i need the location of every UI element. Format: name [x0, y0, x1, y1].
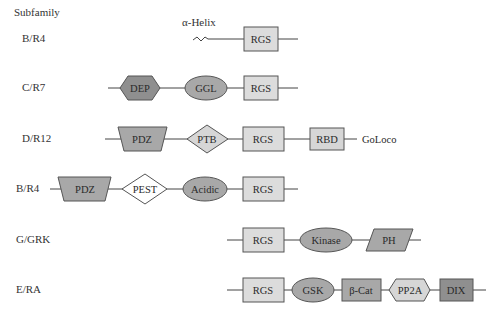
svg-text:RGS: RGS	[253, 134, 274, 145]
svg-text:GSK: GSK	[302, 285, 323, 296]
svg-text:Kinase: Kinase	[311, 235, 340, 246]
svg-text:RGS: RGS	[251, 34, 272, 45]
svg-text:RBD: RBD	[316, 134, 338, 145]
row-e-ra: RGS GSK β-Cat PP2A DIX	[227, 278, 486, 302]
svg-text:PEST: PEST	[133, 184, 158, 195]
row-b-r4: α-Helix RGS	[182, 16, 298, 51]
svg-text:Acidic: Acidic	[191, 184, 219, 195]
svg-text:PDZ: PDZ	[132, 134, 152, 145]
alpha-helix-label: α-Helix	[182, 16, 216, 28]
row-d-r12: PDZ PTB RGS RBD GoLoco	[105, 125, 396, 153]
svg-text:RGS: RGS	[253, 285, 274, 296]
goloco-label: GoLoco	[362, 134, 396, 145]
row-g-grk: RGS Kinase PH	[227, 228, 421, 252]
row-c-r7: DEP GGL RGS	[108, 76, 298, 100]
svg-text:RGS: RGS	[253, 235, 274, 246]
svg-text:DEP: DEP	[130, 83, 150, 94]
svg-text:β-Cat: β-Cat	[349, 285, 373, 296]
svg-text:PTB: PTB	[197, 134, 216, 145]
svg-text:DIX: DIX	[447, 285, 466, 296]
svg-text:PP2A: PP2A	[398, 285, 423, 296]
svg-text:RGS: RGS	[251, 83, 272, 94]
svg-text:GGL: GGL	[195, 83, 217, 94]
row-b-r4-2: PDZ PEST Acidic RGS	[50, 174, 298, 204]
domain-diagram: α-Helix RGS DEP GGL RGS PDZ PTB RGS RBD …	[0, 0, 496, 316]
svg-text:PDZ: PDZ	[75, 184, 95, 195]
svg-text:PH: PH	[382, 235, 396, 246]
alpha-helix-wave	[193, 37, 208, 41]
svg-text:RGS: RGS	[253, 184, 274, 195]
